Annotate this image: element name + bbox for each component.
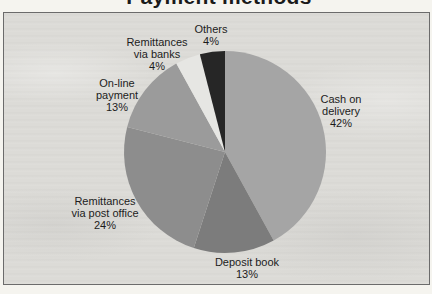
slice-label-others: Others 4% bbox=[194, 23, 227, 47]
slice-label-deposit-book: Deposit book 13% bbox=[215, 256, 279, 280]
slice-label-remittances-via-banks: Remittances via banks 4% bbox=[126, 36, 187, 72]
pie-labels: Cash on delivery 42%Deposit book 13%Remi… bbox=[0, 0, 432, 294]
slice-label-cash-on-delivery: Cash on delivery 42% bbox=[321, 93, 362, 129]
slice-label-remittances-via-post-office: Remittances via post office 24% bbox=[71, 195, 138, 231]
slice-label-on-line-payment: On-line payment 13% bbox=[96, 77, 138, 113]
scanned-chart-page: Payment methods Cash on delivery 42%Depo… bbox=[0, 0, 432, 294]
